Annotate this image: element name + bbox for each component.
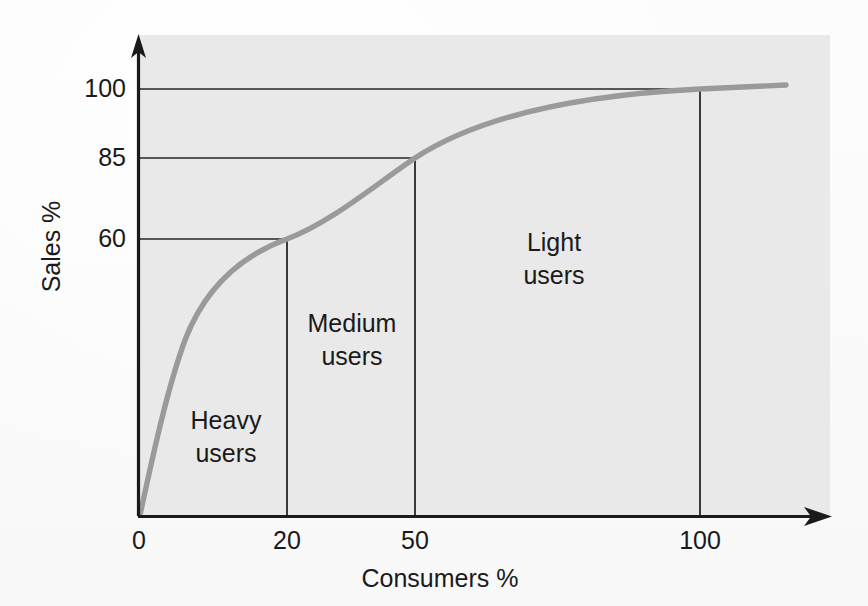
segment-label-medium-users: Medium users [294, 307, 410, 373]
x-tick-label-50: 50 [390, 528, 440, 553]
y-tick-label-85: 85 [50, 145, 126, 170]
x-tick-label-0: 0 [119, 528, 159, 553]
x-tick-label-100: 100 [668, 528, 732, 553]
figure-canvas: 100 85 60 0 20 50 100 Sales % Consumers … [0, 0, 868, 606]
y-axis-title: Sales % [39, 192, 64, 302]
x-axis-title: Consumers % [350, 566, 530, 591]
segment-label-heavy-users: Heavy users [168, 404, 284, 470]
y-tick-label-100: 100 [50, 76, 126, 101]
x-tick-label-20: 20 [262, 528, 312, 553]
segment-label-light-users: Light users [496, 226, 612, 292]
lorenz-curve-chart [0, 0, 868, 606]
